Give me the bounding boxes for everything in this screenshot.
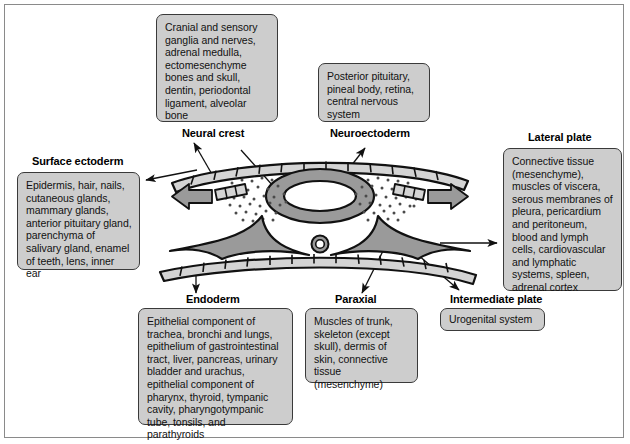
paraxial-box: Muscles of trunk, skeleton (except skull… (305, 308, 418, 383)
arrow-to-neural-crest-label (194, 143, 213, 176)
label-lateral-plate: Lateral plate (528, 131, 592, 143)
label-neural-crest: Neural crest (182, 127, 244, 139)
label-intermediate-plate: Intermediate plate (450, 293, 542, 305)
neural-tube (266, 169, 374, 223)
surface-ectoderm-box: Epidermis, hair, nails, cutaneous glands… (17, 172, 140, 270)
lateral-plate-box: Connective tissue (mesenchyme), muscles … (503, 148, 622, 291)
neuroectoderm-box: Posterior pituitary, pineal body, retina… (318, 63, 430, 122)
mesoderm-wing-left (170, 216, 309, 259)
migration-arrow-left (172, 184, 247, 209)
embryology-germ-layer-figure: Cranial and sensory ganglia and nerves, … (0, 0, 630, 444)
label-neuroectoderm: Neuroectoderm (330, 127, 410, 139)
label-paraxial: Paraxial (335, 293, 376, 305)
label-surface-ectoderm: Surface ectoderm (32, 155, 123, 167)
label-endoderm: Endoderm (186, 293, 240, 305)
mesoderm-wing-right (331, 216, 470, 259)
migration-arrow-right (393, 184, 468, 209)
notochord (312, 236, 329, 253)
endoderm-box: Epithelial component of trachea, bronchi… (138, 308, 293, 425)
intermediate-plate-box: Urogenital system (440, 308, 545, 331)
neural-crest-box: Cranial and sensory ganglia and nerves, … (156, 14, 278, 122)
endoderm-epithelium (160, 254, 476, 284)
